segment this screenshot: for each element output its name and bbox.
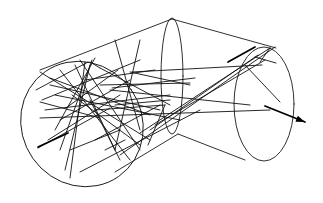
ray-segment [70,62,85,178]
pipe-edge [178,134,245,160]
ray-segment [70,130,120,150]
light-pipe-diagram [0,0,323,203]
ray-segment [120,47,275,155]
ray-segment [255,57,276,63]
ray-segment [115,40,140,150]
pipe-edge [172,19,276,48]
ray-trace-drawing [0,0,323,203]
left-end-ellipse [0,37,168,203]
ray-segment [95,105,160,140]
ray-paths [36,40,280,178]
pipe-edge [40,19,172,70]
ray-segment [245,65,280,102]
arrowhead-icon [295,116,305,122]
